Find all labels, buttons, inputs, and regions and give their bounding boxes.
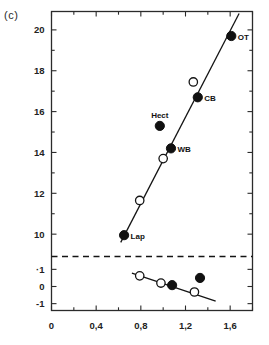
data-point-open [136, 272, 144, 280]
data-point-open [159, 154, 167, 162]
y-axis-tick-label-lower: -1 [36, 298, 45, 309]
data-point-label: Hect [151, 111, 169, 120]
y-axis-tick-label-upper: 12 [34, 188, 45, 199]
x-axis-tick-label: 1,6 [224, 320, 237, 331]
x-axis-tick-label: 0,8 [134, 320, 147, 331]
plot-frame [52, 12, 253, 311]
trend-line [121, 14, 239, 243]
x-axis-tick-label: 1,2 [179, 320, 192, 331]
y-axis-tick-label-lower: 0 [39, 281, 44, 292]
data-point-open [190, 288, 198, 296]
data-point-open [157, 279, 165, 287]
data-point-open [136, 196, 144, 204]
axes-layer [52, 12, 253, 311]
data-point-label: OT [238, 33, 249, 42]
y-axis-tick-label-upper: 18 [34, 65, 45, 76]
data-point-label: Lap [131, 232, 145, 241]
data-point-filled [168, 281, 177, 290]
y-axis-tick-label-lower: ·1 [36, 264, 45, 275]
trend-lines-layer [121, 14, 239, 302]
data-point-label: CB [204, 94, 216, 103]
data-point-open [189, 78, 197, 86]
figure-panel-c: (c) LapWBHectCBOT 00,40,81,21,6201816141… [0, 0, 269, 345]
point-labels-layer: LapWBHectCBOT [131, 33, 249, 241]
data-point-filled [227, 31, 236, 40]
data-point-filled [193, 93, 202, 102]
scatter-plot: LapWBHectCBOT 00,40,81,21,6201816141210·… [0, 0, 269, 345]
y-axis-tick-label-upper: 16 [34, 106, 45, 117]
data-point-filled [195, 273, 204, 282]
data-point-filled [119, 231, 128, 240]
y-axis-tick-label-upper: 20 [34, 24, 45, 35]
data-point-label: WB [177, 145, 191, 154]
y-axis-tick-label-upper: 10 [34, 229, 45, 240]
data-point-filled [155, 121, 164, 130]
x-axis-tick-label: 0,4 [90, 320, 104, 331]
y-axis-tick-label-upper: 14 [34, 147, 45, 158]
tick-labels-layer: 00,40,81,21,6201816141210·10-1 [34, 24, 237, 330]
x-axis-tick-label: 0 [49, 320, 54, 331]
data-point-filled [166, 144, 175, 153]
